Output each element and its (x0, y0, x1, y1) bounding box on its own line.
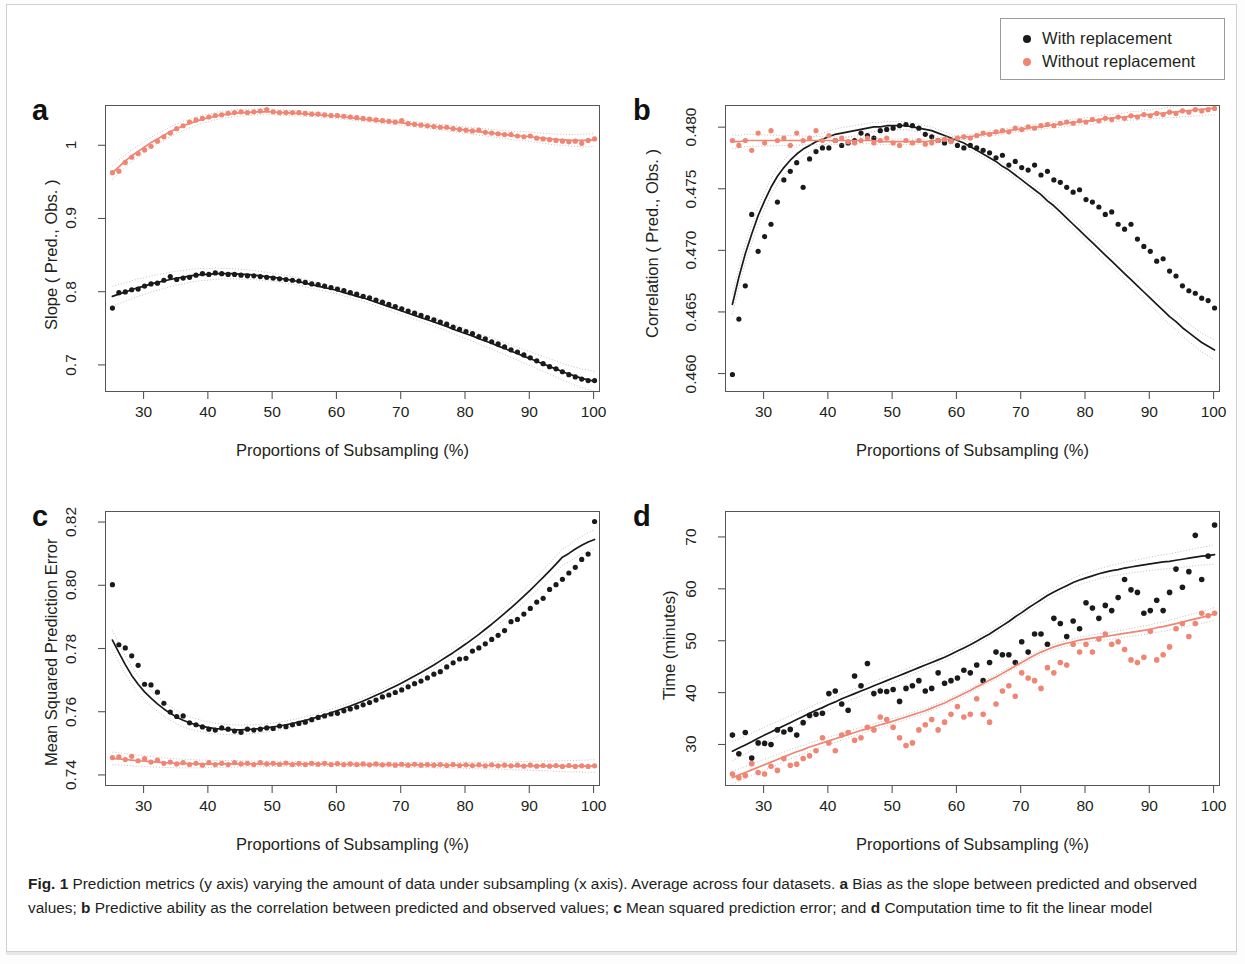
data-point (258, 727, 263, 732)
data-point (1109, 209, 1114, 214)
data-point (1038, 631, 1044, 637)
data-point (1128, 113, 1133, 118)
data-point (341, 114, 346, 119)
data-point (451, 325, 456, 330)
data-point (1141, 654, 1147, 660)
panel-a-points-0 (110, 270, 597, 383)
data-point (457, 327, 462, 332)
data-point (502, 344, 507, 349)
data-point (736, 143, 741, 148)
data-point (807, 713, 813, 719)
data-point (496, 633, 501, 638)
data-point (226, 111, 231, 116)
panel-c-x-tick-label: 100 (569, 797, 619, 815)
data-point (592, 378, 597, 383)
data-point (903, 743, 909, 749)
data-point (1154, 111, 1159, 116)
data-point (155, 139, 160, 144)
data-point (148, 682, 153, 687)
data-point (987, 660, 993, 666)
data-point (749, 755, 755, 761)
panel-c-canvas (106, 512, 600, 786)
data-point (316, 715, 321, 720)
data-point (200, 724, 205, 729)
panel-b-y-tick-label: 0.480 (682, 105, 700, 149)
data-point (264, 275, 269, 280)
data-point (743, 138, 748, 143)
data-point (1006, 129, 1011, 134)
data-point (942, 680, 948, 686)
data-point (1192, 621, 1198, 627)
data-point (457, 763, 462, 768)
data-point (566, 763, 571, 768)
panel-a-y-tick-label: 0.9 (62, 196, 80, 240)
data-point (839, 143, 844, 148)
data-point (903, 686, 909, 692)
data-point (730, 372, 735, 377)
data-point (451, 660, 456, 665)
data-point (547, 137, 552, 142)
data-point (762, 140, 767, 145)
panel-d-x-tick-label: 50 (867, 797, 917, 815)
data-point (200, 763, 205, 768)
data-point (1077, 187, 1082, 192)
data-point (1032, 678, 1038, 684)
data-point (1116, 222, 1121, 227)
data-point (579, 557, 584, 562)
data-point (521, 134, 526, 139)
data-point (123, 757, 128, 762)
data-point (820, 711, 826, 717)
data-point (1180, 584, 1186, 590)
data-point (547, 764, 552, 769)
data-point (566, 139, 571, 144)
data-point (884, 689, 890, 695)
data-point (916, 678, 922, 684)
data-point (910, 123, 915, 128)
data-point (238, 730, 243, 735)
data-point (232, 272, 237, 277)
data-point (826, 691, 832, 697)
data-point (380, 762, 385, 767)
data-point (508, 347, 513, 352)
data-point (219, 725, 224, 730)
data-point (1135, 590, 1141, 596)
data-point (586, 764, 591, 769)
panel-c-x-tick-label: 70 (376, 797, 426, 815)
data-point (891, 126, 896, 131)
data-point (373, 297, 378, 302)
data-point (386, 119, 391, 124)
data-point (1090, 605, 1096, 611)
data-point (528, 606, 533, 611)
data-point (341, 288, 346, 293)
data-point (348, 114, 353, 119)
data-point (1058, 121, 1063, 126)
data-point (903, 122, 908, 127)
data-point (897, 735, 903, 741)
data-point (1071, 190, 1076, 195)
data-point (309, 281, 314, 286)
data-point (226, 727, 231, 732)
data-point (967, 670, 973, 676)
panel-d-confidence-band (732, 564, 1214, 761)
data-point (258, 760, 263, 765)
data-point (1141, 112, 1146, 117)
data-point (245, 110, 250, 115)
data-point (303, 762, 308, 767)
panel-b-letter: b (633, 96, 651, 125)
data-point (955, 675, 961, 681)
data-point (1161, 112, 1166, 117)
data-point (1019, 639, 1025, 645)
data-point (1071, 121, 1076, 126)
data-point (1051, 670, 1057, 676)
data-point (762, 771, 768, 777)
data-point (1083, 119, 1088, 124)
data-point (993, 155, 998, 160)
data-point (865, 135, 870, 140)
data-point (1167, 644, 1173, 650)
data-point (425, 123, 430, 128)
data-point (328, 711, 333, 716)
panel-c-y-tick-label: 0.74 (62, 753, 80, 797)
data-point (412, 311, 417, 316)
data-point (161, 134, 166, 139)
panel-a-x-tick-label: 80 (440, 403, 490, 421)
